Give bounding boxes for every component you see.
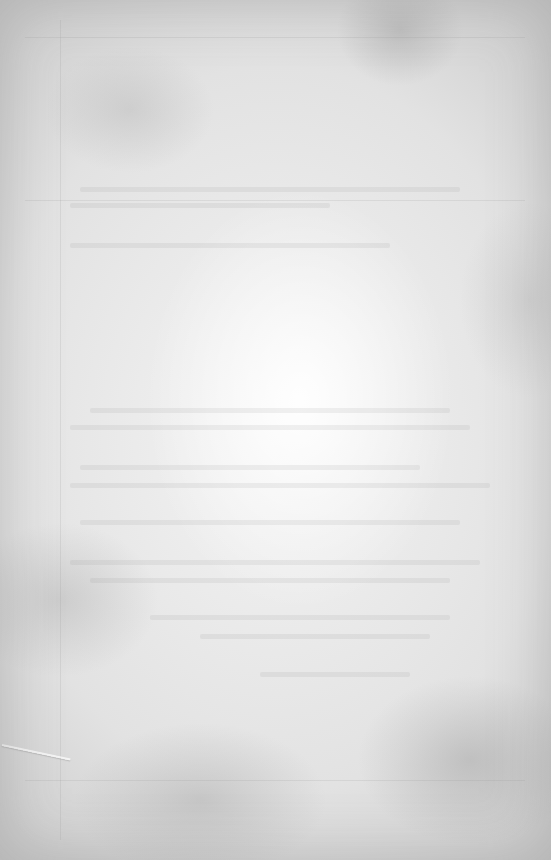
ghost-text-line: [70, 560, 480, 565]
ghost-text-line: [80, 520, 460, 525]
faint-rule-line: [60, 20, 61, 840]
ghost-text-line: [200, 634, 430, 639]
faint-rule-line: [25, 37, 525, 38]
faint-rule-line: [25, 780, 525, 781]
ghost-text-line: [90, 408, 450, 413]
vignette-overlay: [0, 0, 551, 860]
ghost-text-line: [70, 483, 490, 488]
faint-rule-line: [25, 200, 525, 201]
ghost-text-line: [150, 615, 450, 620]
paper-texture-background: [0, 0, 551, 860]
ghost-text-line: [90, 578, 450, 583]
ghost-text-line: [70, 425, 470, 430]
ghost-text-line: [80, 465, 420, 470]
ghost-text-line: [80, 187, 460, 192]
ghost-text-line: [70, 243, 390, 248]
ghost-text-line: [70, 203, 330, 208]
ghost-text-line: [260, 672, 410, 677]
